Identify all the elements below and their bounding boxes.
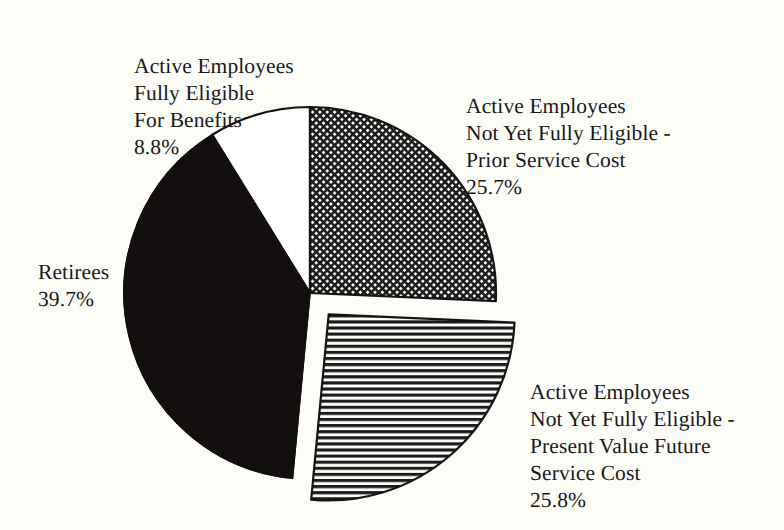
slice-label-percent: 8.8% — [134, 134, 294, 161]
slice-label-active-employees-fully-eligible: Active Employees Fully Eligible For Bene… — [134, 26, 294, 188]
slice-active-employees-present-value-future-service-cost[interactable] — [311, 314, 514, 500]
slice-label-percent: 25.7% — [466, 174, 671, 201]
slice-label-active-employees-present-value-future-service-cost: Active Employees Not Yet Fully Eligible … — [530, 352, 735, 530]
slice-label-text: Retirees — [38, 260, 109, 284]
slice-active-employees-present-value-exploded-group — [311, 314, 514, 500]
slice-label-percent: 39.7% — [38, 286, 109, 313]
slice-label-retirees: Retirees 39.7% — [38, 232, 109, 340]
slice-label-active-employees-prior-service-cost: Active Employees Not Yet Fully Eligible … — [466, 66, 671, 228]
slice-label-text: Active Employees Not Yet Fully Eligible … — [530, 380, 735, 485]
slice-label-percent: 25.8% — [530, 487, 735, 514]
slice-label-text: Active Employees Not Yet Fully Eligible … — [466, 94, 671, 172]
slice-label-text: Active Employees Fully Eligible For Bene… — [134, 54, 294, 132]
pie-chart: Active Employees Fully Eligible For Bene… — [0, 0, 784, 530]
